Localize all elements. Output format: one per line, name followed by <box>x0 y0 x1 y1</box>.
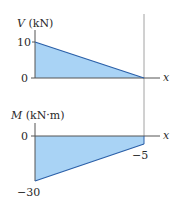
moment-unit: (kN·m) <box>26 109 65 122</box>
moment-area <box>35 136 144 181</box>
shear-symbol: V <box>17 17 25 30</box>
moment-x-symbol: x <box>163 129 169 142</box>
diagram-canvas <box>0 0 182 210</box>
moment-tick-label-minus30: −30 <box>17 187 40 198</box>
shear-unit: (kN) <box>28 17 53 30</box>
moment-tick-label-minus5: −5 <box>132 150 148 161</box>
moment-tick-label-0: 0 <box>21 131 28 142</box>
moment-axis-title: M (kN·m) <box>11 110 65 121</box>
moment-symbol: M <box>11 109 22 122</box>
moment-x-label: x <box>163 130 169 141</box>
shear-tick-label-10: 10 <box>17 37 31 48</box>
shear-x-label: x <box>163 72 169 83</box>
shear-tick-label-0: 0 <box>21 73 28 84</box>
shear-axis-title: V (kN) <box>17 18 53 29</box>
shear-x-symbol: x <box>163 71 169 84</box>
